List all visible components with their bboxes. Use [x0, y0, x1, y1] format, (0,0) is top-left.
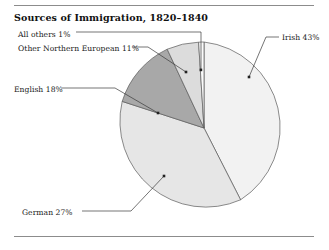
pie-label-irish: Irish 43%: [282, 33, 320, 42]
leader-dot-all-others: [200, 69, 203, 72]
figure-pie-immigration: Sources of Immigration, 1820–1840: [0, 0, 329, 250]
pie-label-other-northern-european: Other Northern European 11%: [18, 44, 139, 53]
leader-dot-irish: [248, 76, 251, 79]
leader-dot-german: [163, 175, 166, 178]
leader-dot-other-northern-european: [185, 71, 188, 74]
leader-dot-english: [157, 112, 160, 115]
divider-bottom: [14, 236, 314, 237]
pie-label-english: English 18%: [14, 85, 63, 94]
pie-label-german: German 27%: [22, 208, 73, 217]
pie-label-all-others: All others 1%: [18, 30, 70, 39]
